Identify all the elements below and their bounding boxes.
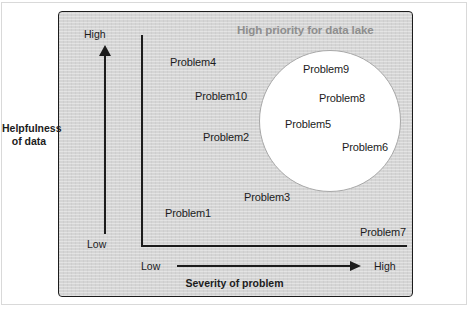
x-axis-tick-low: Low (141, 260, 160, 272)
x-axis-title: Severity of problem (59, 277, 410, 289)
y-axis-title-line-1: Helpfulness (2, 122, 56, 135)
problem-label: Problem5 (285, 118, 331, 130)
problem-label: Problem8 (319, 92, 365, 104)
problem-label: Problem7 (360, 226, 406, 238)
y-axis-direction-arrow (104, 54, 106, 234)
problem-label: Problem6 (342, 141, 388, 153)
y-axis-arrow-head-icon (99, 45, 111, 56)
x-axis-arrow-head-icon (350, 261, 361, 271)
problem-label: Problem1 (165, 207, 211, 219)
problem-label: Problem10 (195, 90, 247, 102)
problem-label: Problem9 (303, 63, 349, 75)
chart-panel: High priority for data lake High Low Low… (58, 11, 413, 297)
y-axis-tick-low: Low (87, 238, 106, 250)
x-axis-direction-arrow (177, 265, 352, 267)
callout-title: High priority for data lake (237, 24, 374, 36)
x-axis-tick-high: High (374, 260, 396, 272)
y-axis-tick-high: High (84, 28, 106, 40)
x-axis-line (141, 245, 407, 247)
y-axis-title-line-2: of data (2, 135, 56, 148)
figure-canvas: High priority for data lake High Low Low… (0, 0, 469, 312)
y-axis-title: Helpfulness of data (2, 122, 56, 147)
problem-label: Problem2 (203, 131, 249, 143)
y-axis-line (141, 35, 143, 247)
problem-label: Problem3 (244, 191, 290, 203)
problem-label: Problem4 (170, 56, 216, 68)
